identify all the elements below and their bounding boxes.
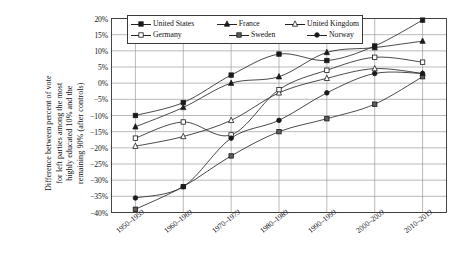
data-point-marker	[325, 68, 329, 72]
data-point-marker	[229, 136, 234, 141]
chart-legend: United StatesFranceUnited KingdomGermany…	[127, 15, 363, 44]
legend-label: Sweden	[251, 30, 275, 39]
legend-label: France	[239, 19, 260, 28]
legend-label: United States	[153, 19, 194, 28]
legend-label: Norway	[329, 30, 354, 39]
legend-row: GermanySwedenNorway	[131, 29, 359, 40]
data-point-marker	[133, 113, 137, 117]
legend-label: United Kingdom	[307, 19, 359, 28]
legend-label: Germany	[153, 30, 182, 39]
data-point-marker	[420, 38, 425, 43]
data-point-marker	[373, 55, 377, 59]
data-point-marker	[325, 91, 330, 96]
legend-marker-icon	[285, 19, 305, 28]
data-point-marker	[372, 71, 377, 76]
data-point-marker	[237, 32, 241, 36]
data-point-marker	[420, 71, 425, 76]
data-point-marker	[229, 154, 233, 158]
legend-item-norway: Norway	[307, 30, 354, 39]
data-point-marker	[325, 117, 329, 121]
data-point-marker	[181, 120, 185, 124]
data-point-marker	[139, 32, 143, 36]
data-point-marker	[277, 87, 281, 91]
legend-item-france: France	[217, 19, 285, 28]
data-point-marker	[277, 52, 281, 56]
data-point-marker	[325, 58, 329, 62]
legend-marker-icon	[217, 19, 237, 28]
data-point-marker	[420, 60, 424, 64]
data-point-marker	[420, 18, 424, 22]
chart-figure: Difference between percent of vote for l…	[0, 0, 461, 278]
data-point-marker	[224, 20, 229, 25]
data-point-marker	[277, 129, 281, 133]
data-point-marker	[139, 21, 143, 25]
legend-marker-icon	[307, 30, 327, 39]
data-point-marker	[133, 136, 137, 140]
data-point-marker	[133, 207, 137, 211]
data-point-marker	[181, 184, 186, 189]
data-point-marker	[293, 20, 298, 25]
legend-marker-icon	[229, 30, 249, 39]
data-point-marker	[277, 118, 282, 123]
legend-marker-icon	[131, 19, 151, 28]
legend-row: United StatesFranceUnited Kingdom	[131, 18, 359, 29]
data-point-marker	[229, 73, 233, 77]
data-point-marker	[373, 102, 377, 106]
data-point-marker	[315, 32, 320, 37]
legend-item-germany: Germany	[131, 30, 229, 39]
legend-item-sweden: Sweden	[229, 30, 307, 39]
legend-item-united-kingdom: United Kingdom	[285, 19, 359, 28]
data-point-marker	[133, 196, 138, 201]
legend-marker-icon	[131, 30, 151, 39]
legend-item-united-states: United States	[131, 19, 217, 28]
